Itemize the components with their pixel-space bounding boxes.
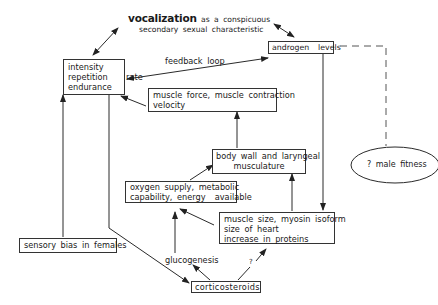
node-line: size of heart [224, 224, 330, 234]
node-muscle-size: muscle size, myosin isoform size of hear… [219, 212, 335, 244]
node-oxygen-supply: oxygen supply, metabolic capability, ene… [125, 181, 237, 203]
node-line: intensity [68, 62, 120, 72]
arrow-musclesize-to-oxygen [180, 209, 214, 225]
node-line: sensory bias in females [24, 240, 112, 250]
title-emphasis: vocalization [128, 12, 197, 24]
node-line: velocity [153, 100, 272, 110]
node-line: oxygen supply, metabolic [130, 182, 232, 192]
node-line: muscle size, myosin isoform [224, 214, 330, 224]
node-body-wall: body wall and laryngeal musculature [212, 149, 306, 174]
label-male-fitness: ? male fitness [367, 160, 427, 170]
node-corticosteroids: corticosteroids [191, 281, 261, 293]
node-muscle-force: muscle force, muscle contraction velocit… [148, 88, 277, 112]
dashed-androgen-to-fitness [340, 46, 386, 146]
arrow-vocalization-performance [93, 28, 118, 55]
title-line1-rest: as a conspicuous [197, 15, 270, 24]
node-line: capability, energy available [130, 192, 232, 202]
arrow-oxygen-to-bodywall [190, 165, 213, 180]
arrow-muscle-force-to-performance [121, 96, 146, 106]
node-line: androgen levels [272, 43, 330, 53]
node-line: repetition rate [68, 72, 120, 82]
node-sensory-bias: sensory bias in females [19, 238, 117, 253]
arrow-corticosteroids-to-glucogenesis [193, 265, 210, 280]
arrow-vocalization-androgen [274, 24, 294, 37]
node-line: endurance [68, 82, 120, 92]
label-question: ? [249, 257, 253, 267]
node-line: corticosteroids [195, 282, 257, 292]
diagram-title: vocalization as a conspicuous secondary … [128, 13, 270, 35]
arrow-corticosteroids-to-musclesize [238, 267, 250, 280]
label-feedback-loop: feedback loop [165, 56, 225, 66]
node-line: body wall and laryngeal [216, 151, 302, 161]
node-performance: intensity repetition rate endurance [63, 59, 125, 95]
node-androgen-levels: androgen levels [268, 41, 334, 54]
node-line: musculature [216, 161, 302, 171]
node-line: increase in proteins [224, 234, 330, 244]
label-glucogenesis: glucogenesis [165, 255, 218, 265]
title-line2: secondary sexual characteristic [128, 25, 270, 35]
node-line: muscle force, muscle contraction [153, 90, 272, 100]
